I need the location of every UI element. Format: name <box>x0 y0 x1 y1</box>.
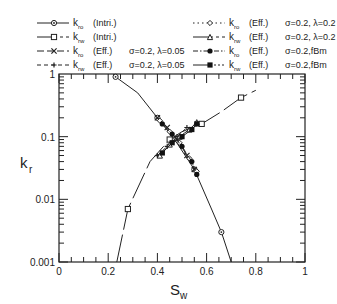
legend-type: (Intri.) <box>93 32 117 42</box>
data-point-square <box>238 95 243 100</box>
y-tick-label: 0.001 <box>30 257 55 268</box>
data-point-filled-circle <box>170 131 175 136</box>
x-tick-label: 0 <box>56 266 62 277</box>
x-tick-label: 1 <box>302 266 308 277</box>
legend-label-sub: rw <box>78 66 85 72</box>
legend-params: σ=0.2, λ=0.2 <box>285 18 336 28</box>
x-tick-label: 0.2 <box>101 266 115 277</box>
data-point-filled-circle <box>179 144 184 149</box>
x-tick-label: 0.6 <box>200 266 214 277</box>
plot-series <box>113 74 256 262</box>
legend-item-1: krw(Intri.) <box>37 31 117 44</box>
series-line <box>117 90 256 262</box>
y-axis-label: k <box>20 154 28 171</box>
y-tick-label: 1 <box>49 69 55 80</box>
legend-item-4: kro(Eff.)σ=0.2, λ=0.2 <box>193 17 336 30</box>
data-point-filled-square <box>189 127 194 132</box>
legend-item-7: krw(Eff.)σ=0.2,fBm <box>193 59 327 72</box>
series-0 <box>113 74 231 262</box>
plot-axes: 00.20.40.60.810.0010.010.11 <box>30 69 308 277</box>
data-point-filled-square <box>179 134 184 139</box>
data-point-filled-circle <box>160 121 165 126</box>
x-tick-label: 0.8 <box>249 266 263 277</box>
legend-type: (Eff.) <box>93 60 112 70</box>
x-axis-label-sub: w <box>179 290 188 301</box>
data-point-filled-square <box>194 121 199 126</box>
legend-type: (Intri.) <box>93 18 117 28</box>
data-point-filled-circle <box>189 159 194 164</box>
legend-type: (Eff.) <box>249 46 268 56</box>
data-point-circle-dot-dot <box>220 231 222 233</box>
legend-label-sub: ro <box>78 24 84 30</box>
legend-marker-plus <box>51 62 56 67</box>
legend-marker-filled-circle <box>207 48 212 53</box>
legend-type: (Eff.) <box>249 60 268 70</box>
data-point-filled-square <box>170 140 175 145</box>
legend-marker-triangle <box>207 34 212 39</box>
data-point-square <box>125 206 130 211</box>
legend-type: (Eff.) <box>93 46 112 56</box>
plot-frame <box>59 74 305 262</box>
legend-params: σ=0.2, λ=0.05 <box>129 60 185 70</box>
legend-params: σ=0.2, λ=0.05 <box>129 46 185 56</box>
legend-item-5: krw(Eff.)σ=0.2, λ=0.2 <box>193 31 336 44</box>
legend-label-sub: ro <box>234 24 240 30</box>
x-axis-label: S <box>170 281 180 298</box>
y-tick-label: 0.01 <box>36 194 56 205</box>
legend-label-sub: rw <box>234 38 241 44</box>
y-tick-label: 0.1 <box>41 132 55 143</box>
legend-type: (Eff.) <box>249 32 268 42</box>
legend-marker-circle-dot-dot <box>53 22 55 24</box>
relative-permeability-chart: kro(Intri.)krw(Intri.)kro(Eff.)σ=0.2, λ=… <box>0 0 337 304</box>
legend-type: (Eff.) <box>249 18 268 28</box>
legend-item-2: kro(Eff.)σ=0.2, λ=0.05 <box>37 45 185 58</box>
legend-marker-square <box>51 34 56 39</box>
legend-label-sub: rw <box>78 38 85 44</box>
y-axis-label-sub: r <box>29 164 33 175</box>
legend-marker-diamond <box>207 20 212 25</box>
data-point-filled-circle <box>194 172 199 177</box>
legend-label-sub: rw <box>234 66 241 72</box>
legend-label-sub: ro <box>78 52 84 58</box>
series-1 <box>117 90 256 262</box>
data-point-square <box>199 121 204 126</box>
legend-params: σ=0.2,fBm <box>285 60 327 70</box>
legend-params: σ=0.2,fBm <box>285 46 327 56</box>
legend-label-sub: ro <box>234 52 240 58</box>
legend-item-0: kro(Intri.) <box>37 17 117 30</box>
chart-legend: kro(Intri.)krw(Intri.)kro(Eff.)σ=0.2, λ=… <box>37 17 336 72</box>
axis-labels: k r S w <box>20 154 188 301</box>
data-point-filled-square <box>160 150 165 155</box>
legend-item-6: kro(Eff.)σ=0.2,fBm <box>193 45 327 58</box>
legend-item-3: krw(Eff.)σ=0.2, λ=0.05 <box>37 59 185 72</box>
data-point-circle-dot-dot <box>115 76 117 78</box>
series-line <box>113 74 231 262</box>
legend-marker-filled-square <box>207 62 212 67</box>
legend-params: σ=0.2, λ=0.2 <box>285 32 336 42</box>
x-tick-label: 0.4 <box>150 266 164 277</box>
